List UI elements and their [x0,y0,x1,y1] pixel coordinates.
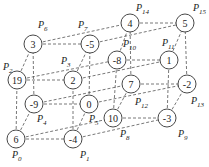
node-label: P13 [190,95,205,109]
node-p2: 19P2 [2,61,26,89]
node-p5: 0P5 [80,95,99,127]
node-value: -2 [183,79,191,90]
node-value: 10 [108,113,118,124]
node-value: 19 [12,75,22,86]
node-value: 1 [167,55,172,66]
node-p1: -4P1 [64,130,90,163]
node-value: 7 [129,79,134,90]
node-label: P9 [177,128,188,142]
node-p11: 1P11 [160,37,178,69]
node-label: P4 [36,113,47,127]
node-p8: 10P8 [104,109,130,142]
node-label: P2 [2,61,13,75]
hypercube-diagram: 6P0-4P119P22P3-9P40P53P6-5P710P8-3P9-8P1… [0,0,209,167]
node-p10: -8P10 [108,38,137,69]
node-label: P15 [192,2,207,16]
node-value: -4 [69,134,77,145]
node-value: -8 [113,55,121,66]
node-p15: 5P15 [176,2,207,32]
node-value: 3 [31,39,36,50]
node-p6: 3P6 [24,19,48,53]
node-label: P8 [119,128,130,142]
node-value: -9 [30,99,38,110]
node-value: 2 [71,75,76,86]
node-value: -3 [163,113,171,124]
node-label: P11 [161,37,175,51]
node-p13: -2P13 [178,75,205,109]
node-p0: 6P0 [7,130,25,163]
node-label: P0 [11,149,22,163]
node-value: 4 [128,18,133,29]
node-p7: -5P7 [77,19,99,53]
node-value: -5 [86,39,94,50]
node-label: P6 [37,19,48,33]
node-label: P12 [134,96,149,110]
node-p3: 2P3 [60,55,82,89]
node-label: P10 [122,38,137,52]
node-label: P5 [88,113,99,127]
node-p4: -9P4 [25,95,47,127]
node-p9: -3P9 [158,109,188,142]
node-p14: 4P14 [121,2,150,32]
node-value: 6 [14,134,19,145]
node-label: P3 [60,55,71,69]
node-label: P1 [79,149,90,163]
node-value: 0 [87,99,92,110]
node-label: P7 [77,19,88,33]
node-label: P14 [135,2,150,16]
node-value: 5 [183,18,188,29]
